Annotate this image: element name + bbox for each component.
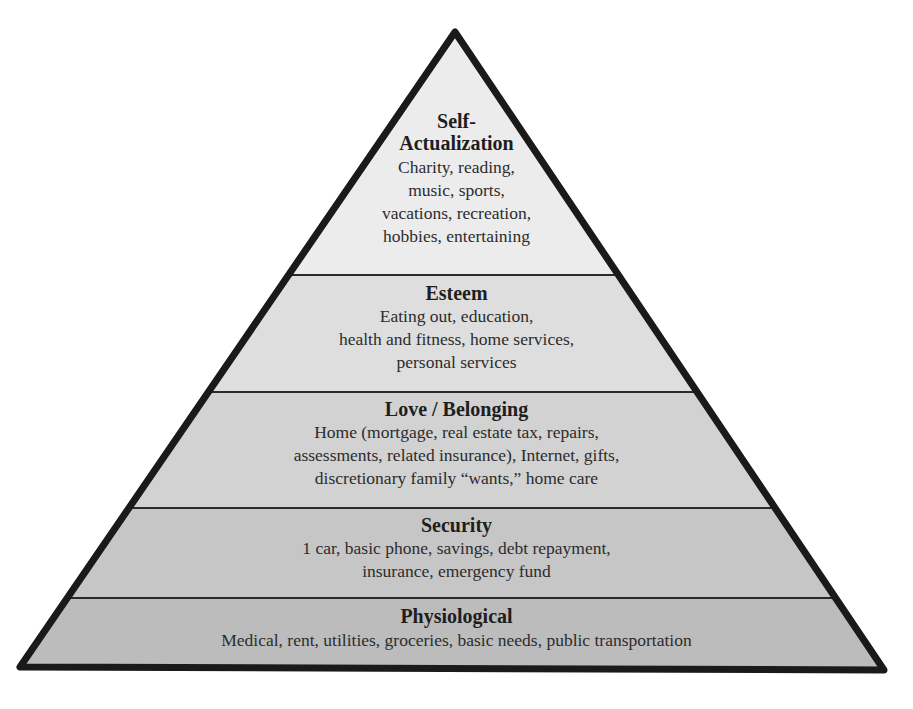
desc-line: health and fitness, home services, bbox=[0, 328, 913, 351]
level-description: Eating out, education, health and fitnes… bbox=[0, 305, 913, 374]
level-title: Love / Belonging bbox=[0, 398, 913, 420]
desc-line: Home (mortgage, real estate tax, repairs… bbox=[0, 421, 913, 444]
desc-line: vacations, recreation, bbox=[0, 202, 913, 225]
title-line: Security bbox=[0, 514, 913, 536]
level-physiological: Physiological Medical, rent, utilities, … bbox=[0, 605, 913, 652]
level-title: Self- Actualization bbox=[0, 110, 913, 154]
level-security: Security 1 car, basic phone, savings, de… bbox=[0, 514, 913, 583]
desc-line: insurance, emergency fund bbox=[0, 560, 913, 583]
level-description: Home (mortgage, real estate tax, repairs… bbox=[0, 421, 913, 490]
level-description: Medical, rent, utilities, groceries, bas… bbox=[0, 629, 913, 652]
title-line: Actualization bbox=[0, 132, 913, 154]
level-esteem: Esteem Eating out, education, health and… bbox=[0, 282, 913, 374]
desc-line: personal services bbox=[0, 351, 913, 374]
title-line: Self- bbox=[0, 110, 913, 132]
level-title: Esteem bbox=[0, 282, 913, 304]
desc-line: Eating out, education, bbox=[0, 305, 913, 328]
desc-line: hobbies, entertaining bbox=[0, 225, 913, 248]
desc-line: music, sports, bbox=[0, 179, 913, 202]
desc-line: assessments, related insurance), Interne… bbox=[0, 444, 913, 467]
desc-line: Medical, rent, utilities, groceries, bas… bbox=[0, 629, 913, 652]
level-title: Security bbox=[0, 514, 913, 536]
level-title: Physiological bbox=[0, 605, 913, 627]
level-self-actualization: Self- Actualization Charity, reading, mu… bbox=[0, 110, 913, 248]
level-love-belonging: Love / Belonging Home (mortgage, real es… bbox=[0, 398, 913, 490]
title-line: Physiological bbox=[0, 605, 913, 627]
level-description: 1 car, basic phone, savings, debt repaym… bbox=[0, 537, 913, 583]
title-line: Esteem bbox=[0, 282, 913, 304]
desc-line: discretionary family “wants,” home care bbox=[0, 467, 913, 490]
desc-line: 1 car, basic phone, savings, debt repaym… bbox=[0, 537, 913, 560]
title-line: Love / Belonging bbox=[0, 398, 913, 420]
level-description: Charity, reading, music, sports, vacatio… bbox=[0, 156, 913, 248]
desc-line: Charity, reading, bbox=[0, 156, 913, 179]
